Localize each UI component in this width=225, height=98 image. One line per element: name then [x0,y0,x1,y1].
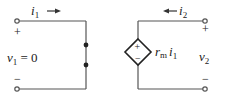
v1-minus-sign: − [14,72,21,86]
source-gain-label: rmi1 [155,44,177,61]
source-minus-sign: − [135,53,141,64]
right-bottom-terminal [203,87,207,91]
node-dot-upper [84,43,89,48]
i1-arrow-icon [47,9,61,14]
i2-arrow-icon [163,9,177,14]
left-top-terminal [15,19,19,23]
circuit-diagram: i1 + v1 = 0 − + − rmi1 i2 + v2 − [0,0,225,98]
v1-label: v1 = 0 [7,50,38,67]
i1-label: i1 [31,3,39,20]
node-dot-lower [84,63,89,68]
v2-minus-sign: − [202,72,209,86]
v1-plus-sign: + [14,25,21,39]
source-plus-sign: + [135,41,141,52]
left-bottom-terminal [15,87,19,91]
i2-label: i2 [179,3,187,20]
v2-label: v2 [199,49,209,66]
v2-plus-sign: + [202,22,209,36]
